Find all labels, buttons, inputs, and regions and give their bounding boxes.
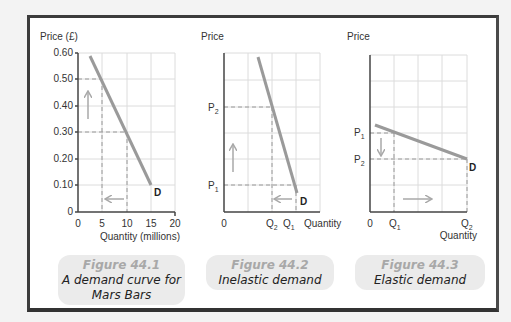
y-tick: 0.30 [54,126,74,137]
q1-label: Q1 [389,218,401,231]
chart-3-ylabel: Price [347,31,370,42]
chart-2-ylabel: Price [201,31,224,42]
y-tick: 0.40 [54,100,74,111]
q1-label: Q1 [283,218,295,231]
origin-label: 0 [221,218,227,229]
chart-1-ylabel: Price (£) [40,31,78,42]
chart-3-demand-curve [375,125,467,159]
curve-label-d: D [469,162,476,173]
chart-1-xlabel: Quantity (millions) [100,231,180,242]
y-tick: 0.60 [54,47,74,58]
caption-figure-44-1: Figure 44.1 A demand curve for Mars Bars [58,255,185,305]
y-tick: 0.10 [54,179,74,190]
curve-label-d: D [300,196,307,207]
chart-1-demand-curve [90,56,151,185]
figure-description: A demand curve for [58,273,185,288]
figure-description: Mars Bars [58,288,185,303]
p2-label: P2 [354,154,365,167]
chart-2-xlabel: Quantity [304,218,341,229]
y-tick: 0 [67,206,73,217]
x-tick: 15 [145,218,157,229]
chart-2-inelastic-demand: Price P2 P1 0 Q2 Q1 Quantity D [201,31,341,231]
chart-2-demand-curve [258,57,297,193]
chart-1-demand-mars-bars: Price (£) 0.60 0.50 0.40 0.30 0.20 0.10 … [40,31,181,242]
p1-label: P1 [354,127,365,140]
y-tick: 0.50 [54,73,74,84]
x-tick: 10 [121,218,133,229]
figure-number: Figure 44.1 [58,258,185,273]
caption-figure-44-2: Figure 44.2 Inelastic demand [206,255,334,290]
caption-figure-44-3: Figure 44.3 Elastic demand [355,255,485,290]
y-tick: 0.20 [54,153,74,164]
x-tick: 20 [169,218,181,229]
q2-label: Q2 [266,218,278,231]
x-tick: 0 [75,218,81,229]
figure-number: Figure 44.3 [355,258,485,273]
x-tick: 5 [99,218,105,229]
chart-2-grid [224,53,320,212]
origin-label: 0 [367,218,373,229]
curve-label-d: D [154,187,161,198]
p2-label: P2 [208,102,219,115]
figure-description: Elastic demand [355,273,485,288]
chart-3-elastic-demand: Price P1 P2 0 Q1 Q2 Quantity D [347,31,477,241]
figure-number: Figure 44.2 [206,258,334,273]
chart-3-xlabel: Quantity [440,230,477,241]
p1-label: P1 [208,180,219,193]
figure-description: Inelastic demand [206,273,334,288]
